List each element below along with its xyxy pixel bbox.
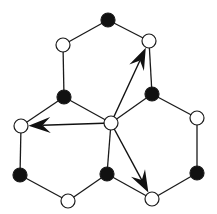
nodes-layer — [13, 13, 204, 208]
arrow-down-right-icon — [111, 123, 148, 192]
diagram-svg — [0, 0, 217, 214]
edge-top-left-upper-left-mid — [63, 45, 64, 97]
node-left-white — [14, 119, 28, 133]
node-bottom-right-low-white — [145, 192, 159, 206]
node-center-white — [104, 116, 118, 130]
node-bottom-mid-black — [100, 167, 114, 181]
edge-bottom-right-low-bottom-right — [152, 173, 197, 199]
edge-top-top-left — [63, 20, 108, 45]
node-upper-left-mid-black — [57, 90, 71, 104]
edge-bottom-mid-center — [107, 123, 111, 174]
edge-upper-right-mid-right — [152, 94, 197, 118]
node-top-right-white — [142, 34, 156, 48]
arrow-up-right-icon — [111, 48, 146, 123]
node-upper-right-mid-black — [145, 87, 159, 101]
node-bottom-right-black — [190, 166, 204, 180]
node-top-left-white — [56, 38, 70, 52]
node-right-white — [190, 111, 204, 125]
arrow-left-icon — [29, 117, 112, 133]
edge-bottom-left-bottom-left-low — [20, 175, 68, 201]
edge-top-right-upper-right-mid — [149, 41, 152, 94]
node-bottom-left-black — [13, 168, 27, 182]
edge-upper-left-mid-center — [64, 97, 111, 123]
node-bottom-left-low-white — [61, 194, 75, 208]
hexagon-lattice-diagram — [0, 0, 217, 214]
node-top-black — [101, 13, 115, 27]
arrows-layer — [29, 48, 149, 193]
